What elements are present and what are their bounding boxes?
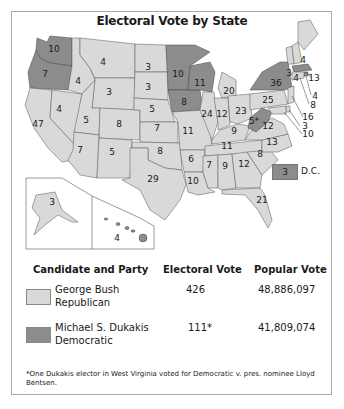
label-ohio: 23 (235, 106, 246, 116)
candidate-party: Democratic (55, 335, 113, 346)
label-georgia: 12 (238, 159, 249, 169)
label-maine: 4 (300, 55, 306, 65)
label-virginia: 12 (262, 121, 273, 131)
label-north-dakota: 3 (145, 62, 151, 72)
label-montana: 4 (100, 57, 106, 67)
label-north-carolina: 13 (266, 137, 277, 147)
label-maryland: 10 (302, 129, 314, 139)
label-new-mexico: 5 (109, 147, 115, 157)
label-new-hampshire: 4 (293, 73, 299, 83)
label-oregon: 7 (42, 69, 48, 79)
label-iowa: 8 (181, 97, 187, 107)
label-wisconsin: 11 (194, 78, 205, 88)
label-louisiana: 10 (187, 176, 199, 186)
label-arizona: 7 (77, 145, 83, 155)
label-colorado: 8 (116, 119, 122, 129)
label-mississippi: 7 (206, 160, 212, 170)
state-maine (298, 20, 318, 50)
label-wyoming: 3 (106, 87, 112, 97)
label-idaho: 4 (75, 76, 81, 86)
state-north-dakota (135, 44, 168, 72)
label-alabama: 9 (222, 161, 228, 171)
label-california: 47 (32, 119, 43, 129)
label-nevada: 4 (56, 104, 62, 114)
state-wyoming (92, 78, 135, 110)
label-florida: 21 (256, 195, 267, 205)
label-south-dakota: 3 (145, 82, 151, 92)
label-oklahoma: 8 (157, 146, 163, 156)
us-electoral-map: 10 7 47 4 4 4 3 5 8 7 5 3 3 5 7 8 29 10 … (0, 0, 344, 260)
popular-vote-value: 41,809,074 (258, 322, 315, 333)
label-massachusetts: 13 (308, 73, 319, 83)
popular-vote-value: 48,886,097 (258, 284, 315, 295)
electoral-vote-value: 426 (186, 284, 205, 295)
label-missouri: 11 (182, 126, 193, 136)
candidate-name: Michael S. Dukakis (55, 322, 149, 333)
electoral-vote-value: 111* (188, 322, 212, 333)
state-hawaii (104, 218, 147, 242)
label-pennsylvania: 25 (262, 95, 273, 105)
candidate-name: George Bush (55, 284, 119, 295)
label-kentucky: 9 (231, 126, 237, 136)
candidate-party: Republican (55, 297, 110, 308)
label-tennessee: 11 (221, 141, 232, 151)
label-vermont: 3 (286, 68, 292, 78)
state-delaware (286, 106, 290, 112)
leader-new-jersey (292, 96, 303, 117)
label-minnesota: 10 (172, 69, 184, 79)
state-florida (222, 188, 272, 228)
dc-swatch: 3 (272, 164, 298, 180)
label-kansas: 7 (154, 123, 160, 133)
label-connecticut: 8 (310, 100, 316, 110)
label-washington: 10 (48, 44, 60, 54)
header-popular-vote: Popular Vote (254, 264, 327, 275)
header-candidate-party: Candidate and Party (33, 264, 148, 275)
label-new-york: 36 (270, 78, 282, 88)
footnote: *One Dukakis elector in West Virginia vo… (26, 370, 316, 388)
label-indiana: 12 (216, 109, 227, 119)
state-new-mexico (97, 138, 132, 178)
state-massachusetts (292, 64, 312, 72)
label-illinois: 24 (201, 109, 213, 119)
label-hawaii: 4 (114, 233, 120, 243)
label-utah: 5 (83, 115, 89, 125)
label-alaska: 3 (49, 197, 55, 207)
leader-delaware (289, 110, 300, 126)
label-west-virginia: 5* (249, 116, 260, 126)
header-electoral-vote: Electoral Vote (163, 264, 242, 275)
label-michigan: 20 (223, 86, 235, 96)
state-new-jersey (288, 86, 294, 104)
dc-label: D.C. (301, 166, 320, 176)
swatch-democratic (26, 327, 51, 343)
label-arkansas: 6 (188, 154, 194, 164)
label-nebraska: 5 (149, 104, 155, 114)
state-alaska (32, 192, 78, 235)
label-south-carolina: 8 (257, 149, 263, 159)
state-south-dakota (134, 72, 168, 100)
swatch-republican (26, 289, 51, 305)
label-texas: 29 (147, 174, 159, 184)
